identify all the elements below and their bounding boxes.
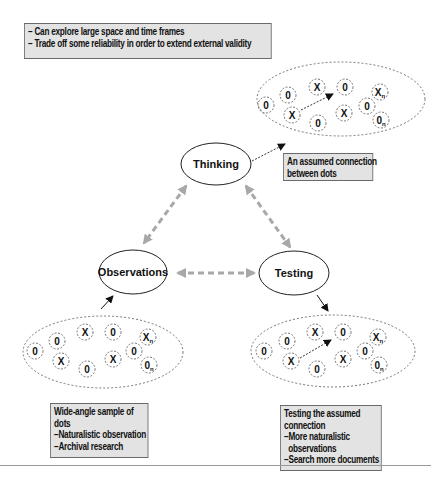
callout-thinking-line-1: An assumed connection [287,156,369,168]
bottom-divider [0,465,431,466]
svg-text:X: X [312,327,319,338]
svg-text:0: 0 [314,364,320,375]
svg-text:X: X [314,82,321,93]
callout-observations: Wide-angle sample of dots –Naturalistic … [50,403,148,458]
svg-text:X: X [58,356,65,367]
callout-observations-line-2: dots [54,418,144,430]
callout-observations-line-4: –Archival research [54,441,144,453]
svg-text:0: 0 [32,346,38,357]
node-thinking-label: Thinking [193,158,239,170]
arrow-cluster-to-observations [101,296,113,309]
svg-text:X: X [340,354,347,365]
svg-text:Xn: Xn [143,332,154,344]
svg-text:0: 0 [285,90,291,101]
cluster-thinking: 00X 0Xn X0X 00n [257,62,425,136]
svg-text:0n: 0n [144,360,154,372]
svg-text:0: 0 [131,346,137,357]
callout-observations-line-1: Wide-angle sample of [54,406,144,418]
callout-testing-line-2: connection [284,420,377,432]
node-observations-label: Observations [98,266,168,278]
svg-text:0: 0 [110,327,116,338]
svg-text:Xn: Xn [375,87,386,99]
svg-text:Xn: Xn [373,332,384,344]
callout-testing-line-4: observations [284,443,377,455]
callout-thinking: An assumed connection between dots [283,153,373,181]
cluster-observations: 00X 0Xn X0X 00n [23,316,183,388]
svg-text:X: X [341,108,348,119]
svg-text:X: X [110,354,117,365]
arrow-testing-to-cluster [317,295,328,311]
svg-text:0: 0 [261,346,267,357]
svg-text:X: X [288,356,295,367]
svg-text:0n: 0n [374,360,384,372]
svg-text:0: 0 [84,364,90,375]
svg-text:0: 0 [362,346,368,357]
svg-text:0: 0 [315,118,321,129]
svg-text:0: 0 [364,101,370,112]
svg-text:0n: 0n [376,115,386,127]
callout-testing-line-3: –More naturalistic [284,431,377,443]
callout-testing-line-1: Testing the assumed [284,408,377,420]
svg-text:X: X [82,327,89,338]
cluster-testing: 00X 0Xn X0X 00n [251,315,415,387]
callout-testing: Testing the assumed connection –More nat… [280,405,382,471]
node-thinking: Thinking [181,143,251,185]
svg-text:X: X [289,110,296,121]
callout-testing-line-5: –Search more documents [284,454,377,466]
node-testing: Testing [259,251,329,295]
callout-observations-line-3: –Naturalistic observation [54,429,144,441]
callout-thinking-line-2: between dots [287,168,369,180]
arrow-thinking-to-cluster [252,144,285,161]
arrow-thinking-observations [144,186,186,243]
svg-text:0: 0 [54,336,60,347]
node-observations: Observations [98,250,168,294]
svg-text:0: 0 [284,336,290,347]
node-testing-label: Testing [275,267,313,279]
svg-text:0: 0 [263,100,269,111]
svg-text:0: 0 [342,82,348,93]
svg-text:0: 0 [340,327,346,338]
arrow-thinking-testing [246,186,290,247]
